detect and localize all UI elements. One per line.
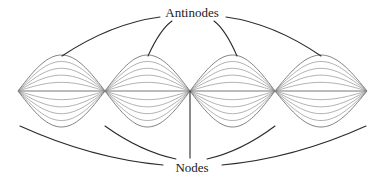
wave-curve — [105, 91, 190, 127]
antinodes-label: Antinodes — [165, 5, 218, 20]
wave-curve — [18, 61, 105, 91]
antinode-leader-3 — [214, 21, 237, 56]
diagram-canvas: Antinodes Nodes — [0, 0, 385, 183]
antinode-leader-4 — [226, 17, 321, 56]
nodes-label: Nodes — [175, 160, 208, 175]
wave-curve — [18, 91, 105, 121]
wave-curve — [190, 91, 275, 127]
wave-curve — [190, 91, 275, 114]
standing-wave-svg: Antinodes Nodes — [0, 0, 385, 183]
wave-curve — [275, 91, 367, 114]
antinode-leader-2 — [148, 21, 172, 56]
wave-curve — [18, 91, 105, 114]
wave-curve — [105, 91, 190, 114]
wave-curve — [275, 68, 367, 91]
wave-curve — [190, 55, 275, 91]
wave-curve — [105, 55, 190, 91]
wave-curve — [275, 91, 367, 127]
wave-curve — [105, 61, 190, 91]
wave-curve — [275, 91, 367, 121]
node-leader-left-inner — [105, 126, 176, 159]
wave-curve — [275, 61, 367, 91]
wave-curve — [18, 91, 105, 127]
wave-curves-group — [18, 55, 367, 127]
wave-curve — [105, 91, 190, 121]
wave-curve — [18, 55, 105, 91]
wave-curve — [190, 61, 275, 91]
wave-curve — [190, 68, 275, 91]
wave-curve — [275, 55, 367, 91]
node-leader-left-outer — [20, 126, 163, 165]
wave-curve — [105, 68, 190, 91]
wave-curve — [190, 91, 275, 121]
node-leader-right-inner — [207, 126, 275, 159]
antinode-leader-1 — [62, 17, 160, 56]
wave-curve — [18, 68, 105, 91]
